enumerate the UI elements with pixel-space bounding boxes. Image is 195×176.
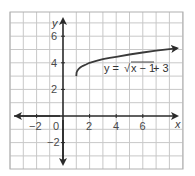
graph: −2 0 2 4 6 6 4 2 −2 x y y = √ x − 1 + 3 <box>0 0 195 176</box>
tick-label-y-2: 2 <box>51 83 57 95</box>
x-axis-label: x <box>174 118 181 130</box>
sqrt-symbol: √ <box>124 62 131 74</box>
tick-label-x-2: 2 <box>86 120 92 132</box>
equation-prefix: y = <box>104 62 119 74</box>
equation-radicand: x − 1 <box>131 62 155 74</box>
tick-label-x-4: 4 <box>113 120 119 132</box>
tick-label-y-6: 6 <box>51 30 57 42</box>
graph-border <box>10 12 183 169</box>
grid <box>10 12 183 169</box>
equation-label: y = √ x − 1 + 3 <box>104 62 169 74</box>
equation-suffix: + 3 <box>153 62 169 74</box>
tick-label-origin: 0 <box>53 120 59 132</box>
tick-label-y-neg2: −2 <box>47 136 60 148</box>
tick-label-x-neg2: −2 <box>29 120 42 132</box>
tick-label-x-6: 6 <box>140 120 146 132</box>
tick-label-y-4: 4 <box>51 57 57 69</box>
